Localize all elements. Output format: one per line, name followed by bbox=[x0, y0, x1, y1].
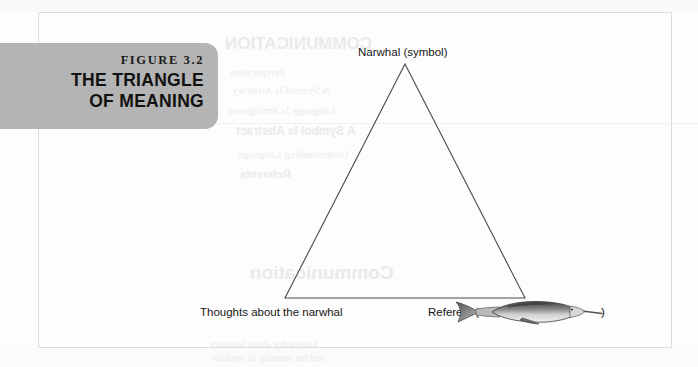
figure-title-line-2: OF MEANING bbox=[0, 91, 204, 112]
narwhal-tail bbox=[456, 302, 479, 322]
figure-title-line-1: THE TRIANGLE bbox=[0, 70, 204, 91]
figure-number: FIGURE 3.2 bbox=[0, 52, 204, 68]
label-thoughts-about-narwhal: Thoughts about the narwhal bbox=[200, 306, 343, 318]
ghost-footer-line: and the meaning of symbols bbox=[212, 352, 325, 363]
figure-caption-tab: FIGURE 3.2 THE TRIANGLE OF MEANING bbox=[0, 43, 218, 129]
ghost-top-band bbox=[0, 0, 698, 12]
ghost-bottom-band bbox=[0, 348, 698, 367]
narwhal-eye bbox=[571, 309, 573, 311]
figure-page: COMMUNICATION Perspectives A Symbol Is A… bbox=[0, 0, 698, 367]
narwhal-illustration bbox=[452, 296, 604, 328]
narwhal-head bbox=[570, 306, 585, 318]
narwhal-tusk bbox=[584, 311, 602, 313]
label-narwhal-symbol: Narwhal (symbol) bbox=[358, 46, 447, 58]
